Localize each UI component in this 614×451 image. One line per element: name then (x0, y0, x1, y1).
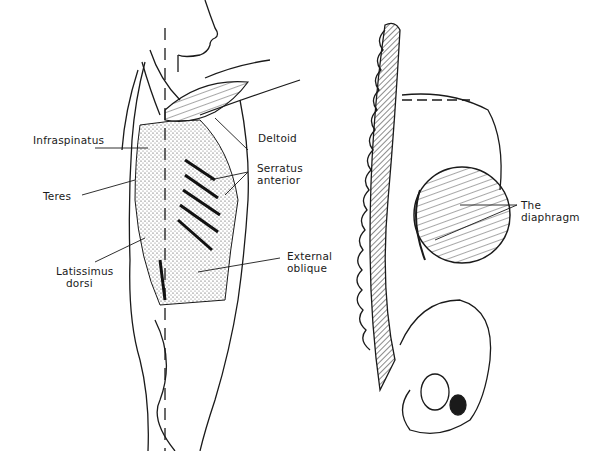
anatomy-illustration (0, 0, 614, 451)
label-deltoid: Deltoid (258, 132, 297, 144)
label-diaphragm-1: The (521, 199, 541, 211)
label-infraspinatus: Infraspinatus (33, 134, 104, 146)
label-external-1: External (287, 250, 332, 262)
label-teres: Teres (43, 190, 71, 202)
label-serratus-2: anterior (257, 174, 300, 186)
label-serratus-1: Serratus (257, 162, 303, 174)
label-latissimus-2: dorsi (66, 277, 93, 289)
label-latissimus-1: Latissimus (56, 265, 114, 277)
label-external-2: oblique (287, 262, 327, 274)
spine-figure (357, 23, 510, 433)
latissimus-region (135, 120, 238, 305)
label-diaphragm-2: diaphragm (521, 211, 580, 223)
